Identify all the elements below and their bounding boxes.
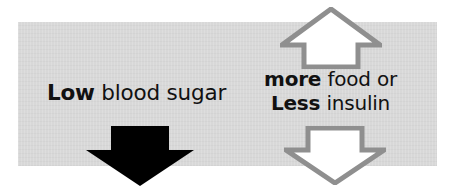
food-or-rest: food or xyxy=(321,67,397,91)
less-emphasis: Less xyxy=(271,91,320,115)
less-insulin-line: Less insulin xyxy=(264,92,397,116)
diagram-canvas: Low blood sugar more food or Less insuli… xyxy=(0,0,451,187)
more-food-less-insulin-label: more food or Less insulin xyxy=(264,68,397,115)
more-food-line: more food or xyxy=(264,68,397,92)
up-arrow-outline-icon xyxy=(280,7,382,69)
low-blood-sugar-label: Low blood sugar xyxy=(47,82,226,104)
insulin-rest: insulin xyxy=(320,91,390,115)
down-arrow-outline-icon xyxy=(284,126,386,185)
low-blood-sugar-rest: blood sugar xyxy=(95,80,226,105)
low-blood-sugar-emphasis: Low xyxy=(47,80,95,105)
down-arrow-solid-icon xyxy=(86,126,194,186)
more-emphasis: more xyxy=(264,67,321,91)
